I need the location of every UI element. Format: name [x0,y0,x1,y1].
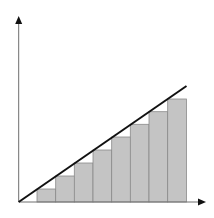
riemann-sum-diagram [0,0,214,218]
rectangle-6 [130,124,149,202]
rectangle-5 [112,137,131,202]
rectangle-7 [149,112,168,202]
rectangle-3 [74,163,93,202]
x-axis-arrowhead-icon [198,199,206,206]
rectangle-8 [168,99,187,202]
rectangle-1 [37,189,56,202]
rectangles-group [37,99,186,202]
rectangle-4 [93,150,112,202]
y-axis-arrowhead-icon [15,16,22,24]
rectangle-2 [56,176,75,202]
